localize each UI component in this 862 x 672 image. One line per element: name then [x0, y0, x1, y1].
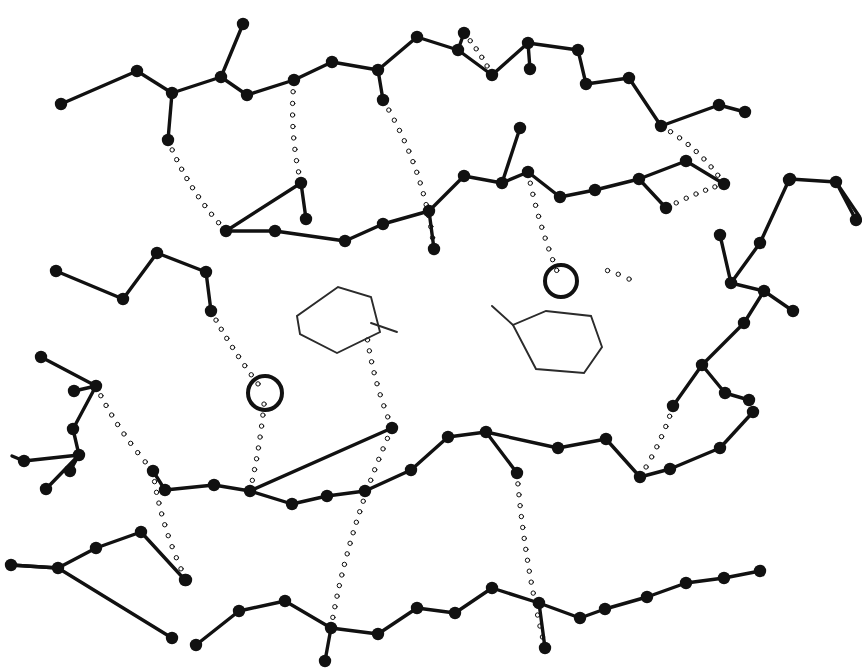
atom-node: [743, 394, 755, 406]
atom-node: [428, 243, 440, 255]
atom-node: [589, 184, 601, 196]
atom-node: [5, 559, 17, 571]
atom-node: [850, 214, 862, 226]
atom-node: [458, 27, 470, 39]
atom-node: [237, 18, 249, 30]
atom-node: [90, 380, 102, 392]
molecule-svg: [0, 0, 862, 672]
atom-node: [286, 498, 298, 510]
atom-node: [539, 642, 551, 654]
atom-node: [580, 78, 592, 90]
atom-node: [52, 562, 64, 574]
atom-node: [166, 87, 178, 99]
atom-node: [480, 426, 492, 438]
atom-node: [244, 485, 256, 497]
molecular-diagram-canvas: [0, 0, 862, 672]
atom-node: [339, 235, 351, 247]
atom-node: [572, 44, 584, 56]
atom-node: [714, 442, 726, 454]
atom-node: [279, 595, 291, 607]
atom-node: [359, 485, 371, 497]
atom-node: [696, 359, 708, 371]
atom-node: [486, 582, 498, 594]
atom-node: [166, 632, 178, 644]
atom-node: [714, 229, 726, 241]
atom-node: [208, 479, 220, 491]
atom-node: [300, 213, 312, 225]
atom-node: [552, 442, 564, 454]
atom-node: [233, 605, 245, 617]
atom-node: [40, 483, 52, 495]
atom-node: [405, 464, 417, 476]
atom-node: [159, 484, 171, 496]
atom-node: [372, 64, 384, 76]
atom-node: [787, 305, 799, 317]
atom-node: [147, 465, 159, 477]
atom-node: [411, 31, 423, 43]
atom-node: [574, 612, 586, 624]
atom-node: [738, 317, 750, 329]
atom-node: [725, 277, 737, 289]
atom-node: [641, 591, 653, 603]
atom-node: [220, 225, 232, 237]
atom-node: [754, 237, 766, 249]
atom-node: [18, 455, 30, 467]
atom-node: [524, 63, 536, 75]
atom-node: [326, 56, 338, 68]
atom-node: [205, 305, 217, 317]
atom-node: [719, 387, 731, 399]
atom-node: [514, 122, 526, 134]
atom-node: [452, 44, 464, 56]
atom-node: [288, 74, 300, 86]
atom-node: [680, 155, 692, 167]
atom-node: [325, 622, 337, 634]
atom-node: [830, 176, 842, 188]
atom-node: [67, 423, 79, 435]
atom-node: [600, 433, 612, 445]
atom-node: [718, 572, 730, 584]
atom-node: [68, 385, 80, 397]
atom-node: [73, 449, 85, 461]
atom-node: [758, 285, 770, 297]
atom-node: [190, 639, 202, 651]
atom-node: [718, 178, 730, 190]
atom-node: [633, 173, 645, 185]
atom-node: [458, 170, 470, 182]
atom-node: [713, 99, 725, 111]
atom-node: [486, 69, 498, 81]
atom-node: [200, 266, 212, 278]
atom-node: [162, 134, 174, 146]
atom-node: [533, 597, 545, 609]
atom-node: [180, 574, 192, 586]
atom-node: [754, 565, 766, 577]
atom-node: [386, 422, 398, 434]
atom-node: [522, 166, 534, 178]
atom-node: [241, 89, 253, 101]
atom-node: [449, 607, 461, 619]
atom-node: [554, 191, 566, 203]
atom-node: [64, 465, 76, 477]
atom-node: [372, 628, 384, 640]
atom-node: [321, 490, 333, 502]
atom-node: [511, 467, 523, 479]
atom-node: [655, 120, 667, 132]
atom-node: [664, 463, 676, 475]
atom-node: [747, 406, 759, 418]
atom-node: [667, 400, 679, 412]
atom-node: [35, 351, 47, 363]
atom-node: [215, 71, 227, 83]
atom-node: [496, 177, 508, 189]
atom-node: [269, 225, 281, 237]
atom-node: [623, 72, 635, 84]
atom-node: [442, 431, 454, 443]
atom-node: [634, 471, 646, 483]
atom-node: [50, 265, 62, 277]
atom-node: [90, 542, 102, 554]
atom-node: [739, 106, 751, 118]
atom-node: [522, 37, 534, 49]
atom-node: [295, 177, 307, 189]
atom-node: [423, 205, 435, 217]
atom-node: [411, 602, 423, 614]
atom-node: [151, 247, 163, 259]
atom-node: [680, 577, 692, 589]
